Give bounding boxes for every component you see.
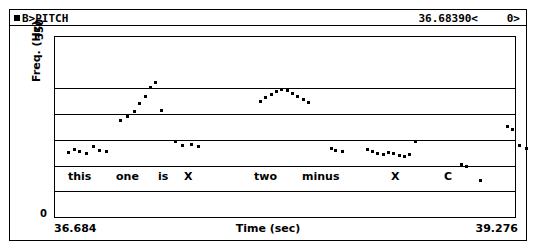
data-point	[259, 100, 262, 103]
data-point	[334, 149, 337, 152]
cursor-value[interactable]: 36.68390<	[418, 12, 478, 25]
y-axis-max-label: 350	[34, 19, 45, 40]
data-point	[366, 148, 369, 151]
transcription-word: C	[444, 170, 452, 183]
data-point	[525, 147, 528, 150]
data-point	[302, 98, 305, 101]
data-point	[280, 88, 283, 91]
transcription-word: two	[254, 170, 277, 183]
data-point	[408, 153, 411, 156]
data-point	[190, 143, 193, 146]
data-point	[105, 150, 108, 153]
transcription-word: is	[158, 170, 168, 183]
transcription-word: one	[116, 170, 139, 183]
transcription-word: minus	[302, 170, 339, 183]
data-point	[138, 102, 141, 105]
transcription-word: X	[184, 170, 192, 183]
data-point	[398, 154, 401, 157]
transcription-word: X	[391, 170, 399, 183]
data-point	[403, 155, 406, 158]
gridline	[55, 140, 515, 141]
panel-title: B>PITCH	[22, 12, 68, 25]
data-point	[382, 153, 385, 156]
data-point	[78, 150, 81, 153]
data-point	[376, 152, 379, 155]
data-point	[506, 125, 509, 128]
data-point	[371, 150, 374, 153]
data-point	[518, 144, 521, 147]
data-point	[144, 95, 147, 98]
gridline	[55, 166, 515, 167]
data-point	[286, 89, 289, 92]
data-point	[126, 115, 129, 118]
data-point	[98, 149, 101, 152]
data-point	[197, 145, 200, 148]
data-point	[414, 140, 417, 143]
data-point	[73, 148, 76, 151]
right-value[interactable]: 0>	[507, 12, 520, 25]
data-point	[181, 144, 184, 147]
title-bar: B>PITCH 36.68390< 0>	[10, 10, 526, 26]
transcription-row: thisoneisXtwominusXC	[54, 170, 516, 200]
x-axis-max-label: 39.276	[476, 222, 518, 235]
data-point	[291, 92, 294, 95]
data-point	[133, 110, 136, 113]
data-point	[341, 150, 344, 153]
data-point	[275, 90, 278, 93]
data-point	[67, 151, 70, 154]
data-point	[149, 86, 152, 89]
y-axis-min-label: 0	[40, 208, 47, 219]
data-point	[160, 109, 163, 112]
window-frame: B>PITCH 36.68390< 0> Freq. (Hz) 350 0 th…	[9, 9, 527, 241]
data-point	[392, 152, 395, 155]
data-point	[92, 145, 95, 148]
data-point	[307, 101, 310, 104]
data-point	[154, 81, 157, 84]
data-point	[511, 128, 514, 131]
square-marker-icon	[14, 15, 20, 21]
data-point	[460, 163, 463, 166]
data-point	[296, 95, 299, 98]
data-point	[119, 119, 122, 122]
data-point	[387, 151, 390, 154]
x-axis-label: Time (sec)	[10, 222, 526, 235]
data-point	[270, 93, 273, 96]
data-point	[85, 152, 88, 155]
data-point	[465, 165, 468, 168]
gridline	[55, 114, 515, 115]
pitch-display-window: B>PITCH 36.68390< 0> Freq. (Hz) 350 0 th…	[0, 0, 534, 248]
transcription-word: this	[68, 170, 91, 183]
data-point	[264, 96, 267, 99]
data-point	[174, 140, 177, 143]
data-point	[330, 147, 333, 150]
